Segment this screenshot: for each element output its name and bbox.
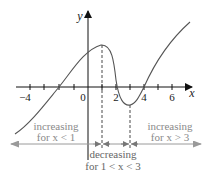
function-curve bbox=[15, 22, 190, 134]
x-tick-label: 0 bbox=[80, 91, 86, 103]
graph-diagram: −4 0 2 4 6 y x increasing for x < 1 decr… bbox=[0, 0, 210, 177]
x-tick-label: 2 bbox=[113, 91, 119, 103]
annotation-left-line2: for x < 1 bbox=[37, 131, 75, 143]
x-tick-label: −4 bbox=[19, 91, 31, 103]
x-axis bbox=[16, 84, 192, 90]
y-axis-label: y bbox=[76, 9, 83, 23]
x-tick-label: 6 bbox=[169, 91, 175, 103]
x-axis-label: x bbox=[188, 86, 195, 100]
annotation-middle-line1: decreasing bbox=[89, 148, 137, 160]
annotation-right-line2: for x > 3 bbox=[151, 131, 190, 143]
x-tick-label: 4 bbox=[141, 91, 147, 103]
annotation-middle-line2: for 1 < x < 3 bbox=[85, 160, 141, 172]
